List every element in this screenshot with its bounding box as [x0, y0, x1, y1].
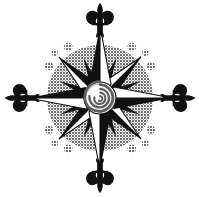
compass-rose-canvas	[0, 0, 199, 197]
spiral-medallion	[84, 82, 116, 114]
compass-rose-illustration	[0, 0, 199, 197]
